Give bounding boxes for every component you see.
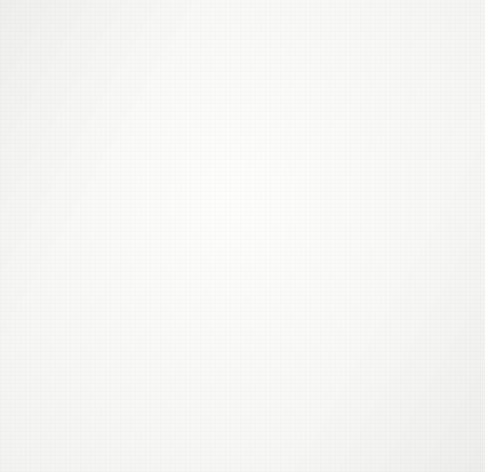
illustration-plate [0,0,485,472]
botanical-line-drawing [0,0,485,472]
